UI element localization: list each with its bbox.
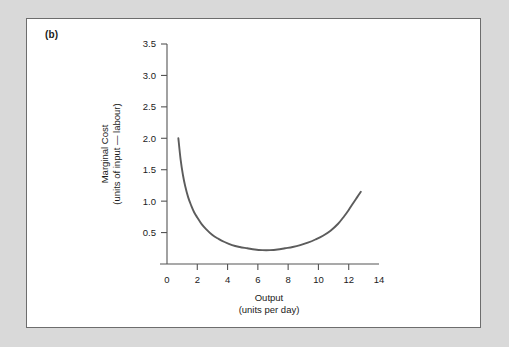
y-tick-label: 0.5 (143, 227, 156, 238)
y-axis-title: Marginal Cost (99, 124, 110, 183)
chart-axes (160, 44, 379, 264)
y-tick-label: 2.5 (143, 101, 156, 112)
x-tick-label: 4 (225, 274, 230, 285)
data-series-group (178, 138, 360, 250)
figure-root: (b) 0.51.01.52.02.53.03.5 02468101214 Ou… (0, 0, 509, 347)
y-axis-ticks: 0.51.01.52.02.53.03.5 (143, 38, 167, 238)
y-tick-label: 3.0 (143, 70, 156, 81)
x-tick-label: 0 (164, 274, 169, 285)
y-tick-label: 1.0 (143, 196, 156, 207)
x-tick-label: 6 (255, 274, 260, 285)
x-tick-label: 2 (195, 274, 200, 285)
x-axis-ticks: 02468101214 (164, 264, 384, 285)
x-tick-label: 12 (343, 274, 354, 285)
marginal-cost-curve (178, 138, 360, 250)
x-tick-label: 8 (285, 274, 290, 285)
x-axis-subtitle: (units per day) (239, 304, 300, 315)
y-tick-label: 1.5 (143, 164, 156, 175)
marginal-cost-chart: 0.51.01.52.02.53.03.5 02468101214 Output… (27, 19, 482, 329)
y-axis-subtitle: (units of input — labour) (111, 103, 122, 204)
x-tick-label: 14 (374, 274, 385, 285)
y-tick-label: 3.5 (143, 38, 156, 49)
figure-panel: (b) 0.51.01.52.02.53.03.5 02468101214 Ou… (26, 18, 481, 328)
x-tick-label: 10 (313, 274, 324, 285)
y-tick-label: 2.0 (143, 133, 156, 144)
x-axis-title: Output (255, 292, 284, 303)
chart-svg: 0.51.01.52.02.53.03.5 02468101214 Output… (27, 19, 482, 329)
